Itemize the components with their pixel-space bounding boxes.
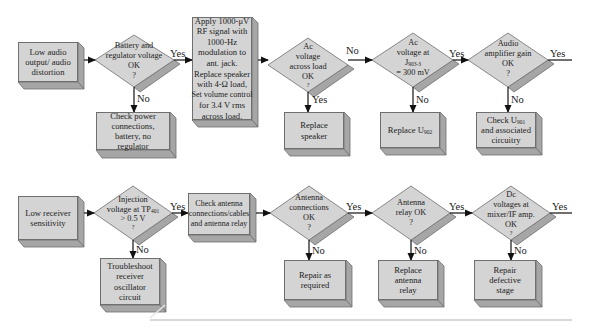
yes-label: Yes [346, 201, 361, 212]
subscript: 401 [151, 208, 159, 214]
box-text: and antenna relay [189, 219, 249, 229]
box-text: Replace U [388, 125, 424, 135]
box-text: receiver [107, 271, 153, 281]
action-check-power: Check power connections, battery, no reg… [96, 112, 170, 150]
box-text: Replace speaker [192, 69, 253, 80]
decision-text: = 300 mV [396, 68, 430, 78]
decision-text: OK [485, 59, 532, 69]
decision-text: relay OK [396, 208, 427, 218]
decision-text: OK [106, 61, 162, 71]
no-label: No [511, 94, 524, 105]
yes-label: Yes [550, 48, 565, 59]
no-label: No [312, 245, 325, 256]
box-text: circuitry [481, 135, 531, 145]
no-label: No [414, 245, 427, 256]
decision-text: Dc [487, 190, 534, 200]
box-text: for 3.4 V rms [192, 100, 253, 111]
decision-text: Injection [107, 195, 159, 205]
decision-text: Ac [289, 42, 326, 52]
subscript: 901 [517, 119, 525, 125]
box-text: Check antenna [189, 199, 249, 209]
yes-label: Yes [552, 201, 567, 212]
decision-text: regulator voltage [106, 51, 162, 61]
decision-ac-voltage-load: Ac voltage across load OK ? [280, 40, 336, 90]
subscript: 902 [424, 129, 432, 135]
action-troubleshoot-oscillator: Troubleshoot receiver oscillator circuit [100, 258, 160, 305]
decision-text: voltage at TP [107, 205, 151, 214]
yes-label: Yes [449, 48, 464, 59]
decision-text: across load [289, 62, 326, 72]
decision-text: mixer/IF amp. [487, 210, 534, 220]
decision-text: ? [106, 71, 162, 81]
box-text: relay [394, 285, 422, 295]
decision-text: voltage at TP401 [107, 205, 159, 215]
start-box-low-sensitivity: Low receiver sensitivity [18, 196, 78, 240]
box-text: connections/cables [189, 209, 249, 219]
box-text: RF signal with [192, 26, 253, 37]
action-replace-speaker: Replace speaker [284, 112, 344, 149]
action-repair-defective-stage: Repair defective stage [474, 260, 536, 300]
box-text: oscillator [107, 282, 153, 292]
decision-text: J903-3 [396, 58, 430, 68]
process-check-antenna: Check antenna connections/cables and ant… [188, 193, 250, 235]
decision-text: ? [289, 223, 329, 233]
decision-text: Audio [485, 39, 532, 49]
decision-ac-voltage-j903: Ac voltage at J903-3 = 300 mV [386, 36, 440, 80]
box-text: Check U901 [481, 115, 531, 125]
box-text: Replace speaker [287, 120, 341, 140]
process-apply-rf-signal: Apply 1000-μV RF signal with 1000-Hz mod… [192, 17, 252, 120]
box-text: Troubleshoot [107, 261, 153, 271]
decision-text: voltages at [487, 200, 534, 210]
decision-text: ? [485, 69, 532, 79]
decision-text: voltage [289, 52, 326, 62]
box-text: antenna [394, 275, 422, 285]
no-label: No [136, 244, 149, 255]
box-text: Low receiver sensitivity [21, 208, 75, 228]
box-text: Repair defective [477, 265, 533, 285]
decision-text: Antenna [396, 198, 427, 208]
no-label: No [514, 245, 527, 256]
decision-injection-voltage: Injection voltage at TP401 > 0.5 V ? [100, 191, 166, 235]
decision-battery-regulator: Battery and regulator voltage OK ? [100, 41, 168, 81]
box-text: 1000-Hz [192, 37, 253, 48]
decision-text: Antenna [289, 193, 329, 203]
decision-text: voltage at [396, 48, 430, 58]
decision-text: Ac [396, 38, 430, 48]
decision-text: > 0.5 V [107, 214, 159, 224]
decision-text: amplifier gain [485, 49, 532, 59]
box-text: ant. jack. [192, 58, 253, 69]
no-label: No [416, 94, 429, 105]
box-text: with 4-Ω load, [192, 79, 253, 90]
yes-label: Yes [170, 48, 185, 59]
action-replace-u902: Replace U902 [380, 112, 440, 148]
box-text: Repair as [299, 270, 331, 280]
decision-text: OK [289, 72, 326, 82]
decision-text: ? [487, 230, 534, 236]
box-text: required [299, 280, 331, 290]
decision-text: OK [289, 213, 329, 223]
box-text: Set volume control [192, 90, 253, 101]
yes-label: Yes [312, 94, 327, 105]
box-text: stage [477, 285, 533, 295]
start-box-low-audio: Low audio output/ audio distortion [18, 42, 78, 82]
yes-label: Yes [170, 201, 185, 212]
action-replace-antenna-relay: Replace antenna relay [378, 260, 438, 300]
subscript: 903-3 [408, 61, 421, 67]
box-text: Replace [394, 265, 422, 275]
yes-label: Yes [449, 201, 464, 212]
decision-dc-voltages-mixer: Dc voltages at mixer/IF amp. OK ? [482, 187, 540, 239]
box-text: Replace U902 [388, 125, 432, 135]
box-text: Check U [487, 115, 517, 125]
decision-text: ? [107, 224, 159, 231]
decision-antenna-connections: Antenna connections OK ? [282, 192, 336, 234]
box-text: Check power connections, battery, no reg… [99, 111, 167, 152]
decision-text: OK [487, 220, 534, 230]
box-text: across load. [192, 111, 253, 122]
decision-text: Battery and [106, 41, 162, 51]
action-repair-as-required: Repair as required [284, 260, 346, 300]
decision-antenna-relay: Antenna relay OK ? [386, 195, 436, 231]
box-text: Low audio output/ audio distortion [21, 47, 75, 78]
no-label: No [137, 93, 150, 104]
decision-text: ? [289, 82, 326, 88]
box-text: circuit [107, 292, 153, 302]
